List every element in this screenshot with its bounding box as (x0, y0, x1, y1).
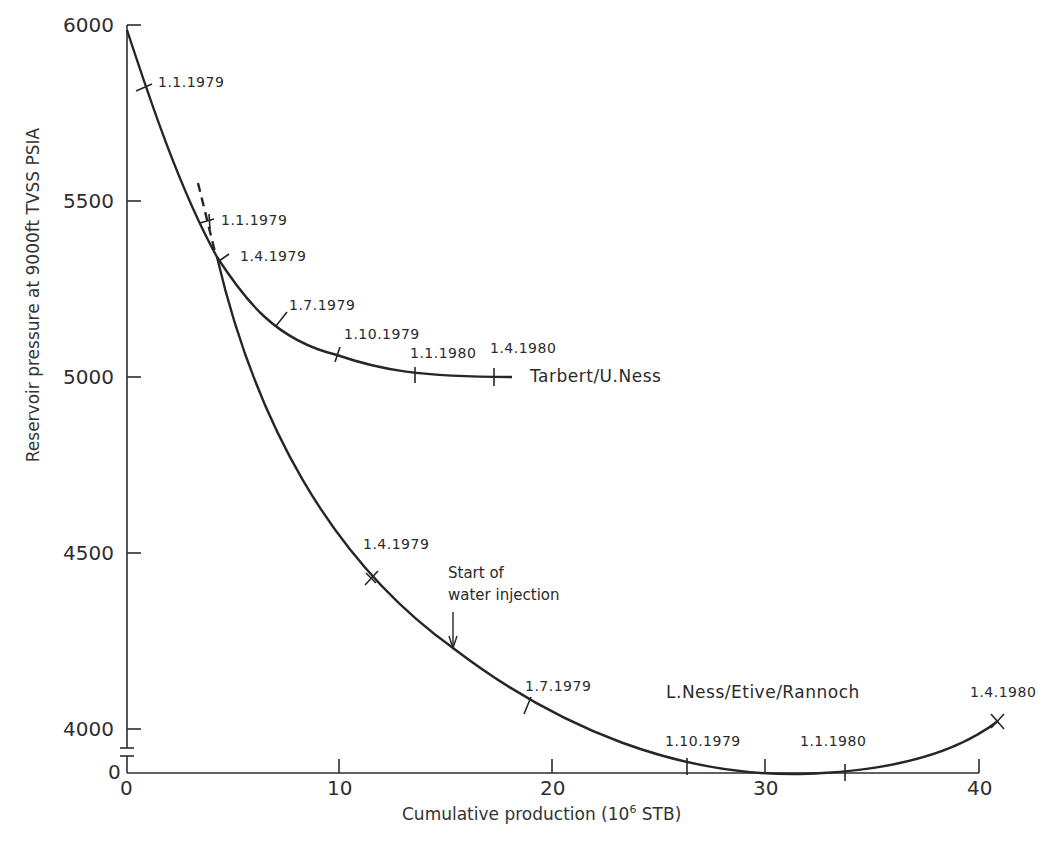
marker-tarbert-1-1-1979-v (209, 214, 210, 229)
x-tick-label-40: 40 (967, 776, 992, 800)
arrow-icon (449, 612, 457, 648)
date-label-tarbert-1-10-1979: 1.10.1979 (344, 326, 420, 342)
date-label-lness-1-7-1979: 1.7.1979 (525, 678, 591, 694)
date-label-lness-1-1-1980: 1.1.1980 (800, 733, 866, 749)
date-label-lness-1-4-1979: 1.4.1979 (363, 536, 429, 552)
marker-lness-1-7-1979 (524, 697, 531, 714)
marker-tarbert-1-7-1979 (276, 312, 287, 326)
x-tick-label-0: 0 (120, 776, 133, 800)
y-axis-title: Reservoir pressure at 9000ft TVSS PSIA (23, 128, 43, 462)
date-label-lness-1-10-1979: 1.10.1979 (665, 733, 741, 749)
chart-canvas (0, 0, 1054, 842)
date-label-lness-1-4-1980: 1.4.1980 (970, 684, 1036, 700)
y-tick-label-0: 0 (108, 760, 121, 784)
date-label-tarbert-1-1-1980: 1.1.1980 (410, 345, 476, 361)
dashed-extrapolation-line (198, 183, 215, 252)
y-tick-label-5500: 5500 (63, 189, 114, 213)
date-label-tarbert-1-4-1980: 1.4.1980 (490, 340, 556, 356)
series-label-tarbert: Tarbert/U.Ness (530, 366, 661, 386)
x-tick-label-20: 20 (540, 776, 565, 800)
annotation-line-2: water injection (448, 584, 560, 606)
x-axis-title-main: Cumulative production (10 (402, 804, 629, 824)
x-axis-title-tail: STB) (636, 804, 681, 824)
y-tick-label-4000: 4000 (63, 717, 114, 741)
annotation-line-1: Start of (448, 562, 560, 584)
lness-curve (217, 257, 998, 774)
y-tick-label-6000: 6000 (63, 13, 114, 37)
series-label-lness: L.Ness/Etive/Rannoch (666, 682, 860, 702)
axes (120, 25, 979, 773)
date-label-top-1-1-1979: 1.1.1979 (158, 74, 224, 90)
date-label-tarbert-1-1-1979: 1.1.1979 (221, 212, 287, 228)
marker-1-1-1979-top (136, 84, 152, 91)
y-tick-label-4500: 4500 (63, 541, 114, 565)
annotation-water-injection: Start of water injection (448, 562, 560, 606)
marker-tarbert-1-4-1979 (219, 254, 229, 261)
x-tick-label-30: 30 (753, 776, 778, 800)
date-label-tarbert-1-4-1979: 1.4.1979 (240, 248, 306, 264)
y-tick-label-5000: 5000 (63, 365, 114, 389)
tarbert-date-markers (136, 84, 494, 386)
x-axis-title: Cumulative production (106 STB) (402, 803, 681, 824)
date-label-tarbert-1-7-1979: 1.7.1979 (289, 297, 355, 313)
x-tick-label-10: 10 (327, 776, 352, 800)
